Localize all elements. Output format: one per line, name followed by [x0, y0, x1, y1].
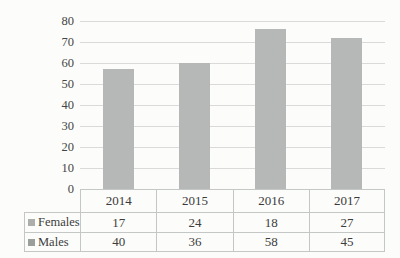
females-2016-value: 18	[233, 212, 309, 232]
males-2017-value: 45	[309, 232, 385, 252]
bar-2014	[103, 69, 134, 189]
y-axis-tick-label: 60	[40, 55, 74, 71]
bar-2016	[255, 29, 286, 189]
males-2015-value: 36	[156, 232, 232, 252]
females-2014-value: 17	[80, 212, 156, 232]
y-axis-tick-label: 70	[40, 34, 74, 50]
bars	[80, 21, 385, 189]
y-axis-tick-label: 20	[40, 139, 74, 155]
bar-2015	[179, 63, 210, 189]
y-axis-tick-label: 40	[40, 97, 74, 113]
bar-column-2015	[156, 21, 232, 189]
table-corner-empty	[24, 189, 80, 212]
y-axis-tick-label: 30	[40, 118, 74, 134]
row-label-males: Males	[24, 232, 80, 252]
males-label: Males	[38, 235, 69, 250]
data-table: 2014 2015 2016 2017 Females 17 24 18 27 …	[24, 189, 385, 252]
chart: 01020304050607080 2014 2015 2016 2017 Fe…	[0, 0, 400, 258]
bar-column-2014	[80, 21, 156, 189]
females-2017-value: 27	[309, 212, 385, 232]
males-legend-key-icon	[28, 239, 35, 246]
females-label: Females	[38, 215, 80, 230]
bar-2017	[331, 38, 362, 189]
y-axis-tick-label: 80	[40, 13, 74, 29]
y-axis-tick-label: 10	[40, 160, 74, 176]
males-2014-value: 40	[80, 232, 156, 252]
year-header-2014: 2014	[80, 189, 156, 212]
row-label-females: Females	[24, 212, 80, 232]
bar-column-2016	[233, 21, 309, 189]
year-header-2015: 2015	[156, 189, 232, 212]
y-axis-tick-label: 50	[40, 76, 74, 92]
females-2015-value: 24	[156, 212, 232, 232]
bar-column-2017	[309, 21, 385, 189]
year-header-2017: 2017	[309, 189, 385, 212]
year-header-2016: 2016	[233, 189, 309, 212]
males-2016-value: 58	[233, 232, 309, 252]
females-legend-key-icon	[28, 219, 35, 226]
plot-area	[80, 21, 385, 189]
